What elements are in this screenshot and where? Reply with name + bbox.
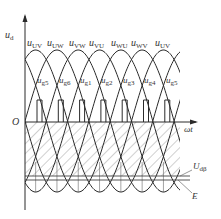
label-sub: UW	[52, 42, 64, 50]
label-sub: WV	[136, 42, 148, 50]
label-sub: VU	[94, 42, 104, 50]
line-voltage-label: uUW	[47, 38, 64, 50]
y-axis-label: ud	[5, 30, 14, 42]
rectifier-waveform-diagram: ud O ωt uUVuUWuVWuVUuWUuWVuUV ug5ug6ug1u…	[0, 0, 221, 219]
line-voltage-label: uVU	[89, 38, 104, 50]
e-leader-line	[178, 180, 192, 193]
y-axis-arrow-icon	[23, 14, 28, 22]
label-sub: g5	[171, 79, 178, 87]
waveform-plot	[0, 0, 221, 219]
gate-pulse-label: ug2	[101, 76, 113, 87]
x-axis-label: ωt	[184, 125, 193, 134]
udb-leader-line	[180, 170, 192, 176]
label-sub: g4	[149, 79, 156, 87]
gate-pulse-label: ug5	[37, 76, 49, 87]
y-axis-label-sub: d	[10, 34, 14, 42]
label-sub: g2	[106, 79, 113, 87]
label-sub: WU	[116, 42, 128, 50]
label-sub: UV	[32, 42, 42, 50]
udb-label-sub: dβ	[200, 165, 207, 173]
line-voltage-label: uWV	[131, 38, 148, 50]
gate-pulse-label: ug6	[59, 76, 71, 87]
gate-pulse-label: ug3	[123, 76, 135, 87]
gate-pulse-label: ug1	[80, 76, 92, 87]
gate-pulse-label: ug5	[166, 76, 178, 87]
label-sub: VW	[74, 42, 86, 50]
hatched-inverter-region	[25, 122, 180, 176]
udb-label: Udβ	[193, 162, 207, 173]
line-voltage-label: uWU	[111, 38, 128, 50]
gate-pulse-label: ug4	[144, 76, 156, 87]
label-sub: g6	[64, 79, 71, 87]
origin-label: O	[12, 117, 19, 127]
e-label: E	[192, 192, 198, 201]
label-sub: g3	[128, 79, 135, 87]
line-voltage-label: uVW	[69, 38, 86, 50]
line-voltage-label: uUV	[155, 38, 170, 50]
label-sub: g5	[42, 79, 49, 87]
line-voltage-label: uUV	[27, 38, 42, 50]
label-sub: UV	[160, 42, 170, 50]
label-sub: g1	[85, 79, 92, 87]
